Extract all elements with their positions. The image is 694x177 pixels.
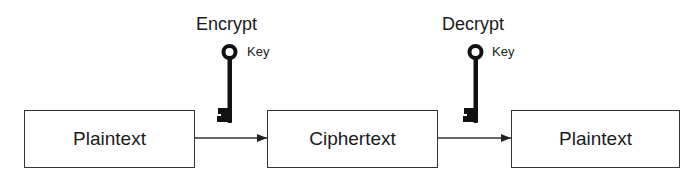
- ciphertext-box: Ciphertext: [267, 110, 438, 168]
- decrypt-label: Decrypt: [442, 14, 504, 35]
- plaintext-output-box: Plaintext: [511, 110, 680, 168]
- node-label: Plaintext: [73, 128, 146, 150]
- key-icon: [217, 46, 236, 123]
- plaintext-input-box: Plaintext: [24, 110, 195, 168]
- node-label: Plaintext: [559, 128, 632, 150]
- key-label: Key: [492, 44, 514, 59]
- encrypt-label: Encrypt: [196, 14, 257, 35]
- key-icon: [463, 46, 482, 123]
- node-label: Ciphertext: [309, 128, 396, 150]
- key-label: Key: [247, 44, 269, 59]
